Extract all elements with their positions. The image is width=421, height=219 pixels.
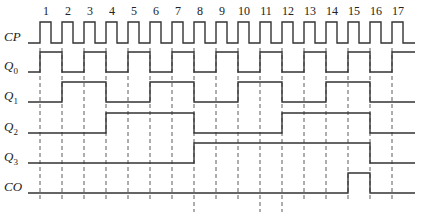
- clock-number: 4: [109, 4, 115, 19]
- signal-label: Q3: [4, 149, 18, 167]
- clock-number: 13: [304, 4, 316, 19]
- clock-number: 8: [197, 4, 203, 19]
- clock-number: 10: [238, 4, 250, 19]
- q0-waveform: [28, 52, 415, 72]
- clock-number: 6: [153, 4, 159, 19]
- clock-number: 15: [348, 4, 360, 19]
- waveforms: [0, 0, 421, 219]
- clock-number: 7: [175, 4, 181, 19]
- q3-waveform: [28, 143, 415, 163]
- clock-number: 17: [392, 4, 404, 19]
- signal-label: Q2: [4, 119, 18, 137]
- co-waveform: [28, 173, 415, 193]
- cp-waveform: [28, 22, 415, 43]
- clock-number: 1: [43, 4, 49, 19]
- signal-label: Q1: [4, 88, 18, 106]
- clock-number: 12: [282, 4, 294, 19]
- q1-waveform: [28, 82, 415, 102]
- clock-number: 14: [326, 4, 338, 19]
- signal-label: CO: [4, 179, 22, 195]
- clock-number: 5: [131, 4, 137, 19]
- clock-number: 2: [65, 4, 71, 19]
- clock-number: 9: [219, 4, 225, 19]
- clock-number: 11: [260, 4, 272, 19]
- q2-waveform: [28, 113, 415, 133]
- signal-label: CP: [4, 29, 21, 45]
- clock-number: 3: [87, 4, 93, 19]
- signal-label: Q0: [4, 58, 18, 76]
- clock-number: 16: [370, 4, 382, 19]
- timing-diagram: CPQ0Q1Q2Q3CO 1234567891011121314151617: [0, 0, 421, 219]
